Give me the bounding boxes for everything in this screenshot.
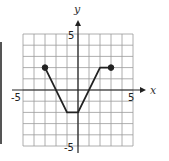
y-axis-label: y <box>73 3 81 16</box>
axis-labels: y x 5 -5 -5 5 <box>11 3 157 153</box>
y-min-tick-label: -5 <box>64 142 74 153</box>
x-max-tick-label: 5 <box>128 92 134 103</box>
x-axis-label: x <box>150 84 157 97</box>
endpoint-dot <box>42 65 48 71</box>
x-min-tick-label: -5 <box>11 92 21 103</box>
function-graph: y x 5 -5 -5 5 <box>0 0 169 161</box>
axes <box>12 20 146 153</box>
y-max-tick-label: 5 <box>68 30 74 41</box>
endpoint-dot <box>108 65 114 71</box>
